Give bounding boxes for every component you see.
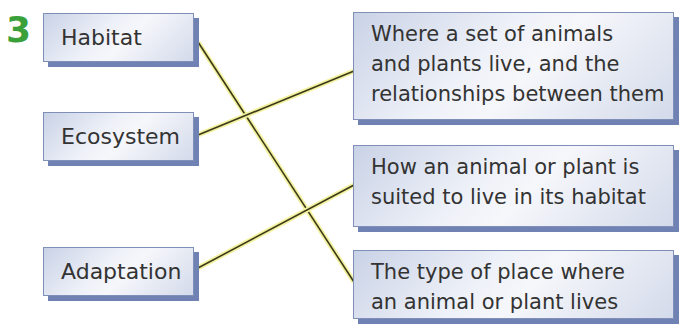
term-label: Adaptation (61, 259, 181, 284)
definition-line: and plants live, and the (371, 49, 673, 79)
definition-line: The type of place where (371, 257, 673, 287)
definition-box-habitat[interactable]: The type of place where an animal or pla… (353, 250, 674, 319)
definition-box-adaptation[interactable]: How an animal or plant is suited to live… (353, 145, 674, 227)
definition-line: Where a set of animals (371, 19, 673, 49)
question-number: 3 (6, 10, 31, 50)
term-box-habitat[interactable]: Habitat (43, 13, 194, 62)
definition-line: an animal or plant lives (371, 287, 673, 317)
definition-box-ecosystem[interactable]: Where a set of animals and plants live, … (353, 12, 674, 120)
term-box-adaptation[interactable]: Adaptation (43, 247, 194, 296)
definition-line: suited to live in its habitat (371, 182, 673, 212)
definition-line: How an animal or plant is (371, 152, 673, 182)
term-box-ecosystem[interactable]: Ecosystem (43, 112, 194, 161)
match-line-adaptation (198, 185, 354, 268)
term-label: Habitat (61, 25, 142, 50)
term-label: Ecosystem (61, 124, 180, 149)
definition-line: relationships between them (371, 79, 673, 109)
